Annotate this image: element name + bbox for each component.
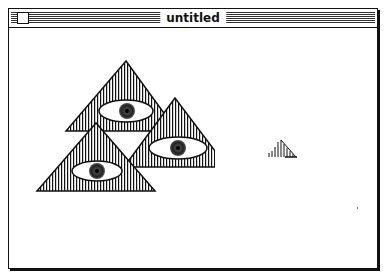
window-title: untitled (160, 10, 226, 26)
small-pyramid-sketch[interactable] (269, 140, 297, 157)
canvas-speck (357, 207, 358, 209)
document-window: untitled (8, 8, 378, 269)
close-box-icon[interactable] (17, 12, 29, 24)
drawing-canvas (9, 28, 377, 268)
title-bar[interactable]: untitled (9, 9, 377, 28)
canvas-area[interactable] (9, 28, 377, 268)
